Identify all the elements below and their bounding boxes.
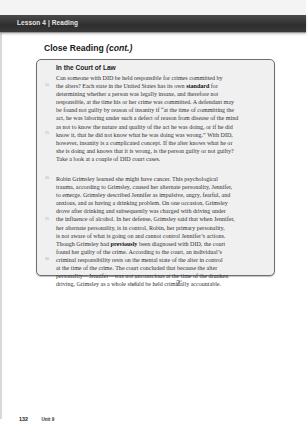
text-run: the alters? Each state in the United Sta… [56, 83, 186, 89]
text-line: anxious, and as having a drinking proble… [56, 199, 272, 207]
text-line: Take a look at a couple of DID court cas… [56, 155, 272, 163]
vocab-word-standard: standard [186, 83, 209, 89]
text-line: her alternate personality, is in control… [56, 224, 272, 232]
line-number: 15 [45, 131, 49, 135]
section-title: Close Reading (cont.) [44, 43, 132, 53]
text-line: is not aware of what is going on and can… [56, 232, 272, 240]
page-footer: 132 Unit 9 [19, 407, 54, 425]
lesson-header-bar: Lesson 4 | Reading [0, 15, 306, 33]
text-line: the alters? Each state in the United Sta… [56, 82, 272, 90]
text-line: be found not guilty by reason of insanit… [56, 106, 272, 114]
text-run: been diagnosed with DID, the court [137, 241, 225, 247]
text-line: she is doing and knows that it is wrong,… [56, 147, 272, 155]
lesson-label: Lesson 4 | Reading [17, 19, 78, 26]
top-margin [0, 0, 306, 15]
text-line: Can someone with DID be held responsible… [56, 74, 272, 82]
text-run: Though Grimsley had [56, 241, 111, 247]
unit-label: Unit 9 [41, 417, 54, 422]
text-line: drove after drinking and subsequently wa… [56, 207, 272, 215]
text-line: driving, Grimsley as a whole should be h… [56, 280, 272, 288]
passage-paragraph-1: Can someone with DID be held responsible… [56, 74, 272, 163]
text-line: responsible, at the time his or her crim… [56, 98, 272, 106]
line-number: 30 [45, 257, 49, 261]
checkmark-icon: ✔ [131, 280, 138, 289]
page-edge [0, 0, 2, 419]
line-number: 25 [45, 217, 49, 221]
text-line: to emerge. Grimsley described Jennifer a… [56, 191, 272, 199]
question-mark-icon: ?c [176, 278, 182, 288]
text-line: as not to know the nature and quality of… [56, 123, 272, 131]
page-number: 132 [19, 416, 28, 422]
text-line: Though Grimsley had previously been diag… [56, 240, 272, 248]
question-superscript: c [181, 278, 183, 283]
passage-heading: In the Court of Law [56, 64, 116, 71]
text-line: however, insanity is a complicated conce… [56, 139, 272, 147]
text-line: know it, that he did not know what he wa… [56, 131, 272, 139]
passage-paragraph-2: Robin Grimsley learned she might have ca… [56, 175, 272, 288]
line-number: 10 [45, 83, 49, 87]
text-line: the influence of alcohol. In her defense… [56, 215, 272, 223]
text-run: for [209, 83, 218, 89]
text-line: determining whether a person was legally… [56, 90, 272, 98]
section-title-text: Close Reading [44, 43, 104, 53]
text-line: Robin Grimsley learned she might have ca… [56, 175, 272, 183]
vocab-word-previously: previously [111, 241, 138, 247]
line-number: 20 [45, 176, 49, 180]
text-line: at the time of the crime. The court conc… [56, 264, 272, 272]
text-line: personality—Jennifer—was not unconscious… [56, 272, 272, 280]
reading-passage-box: In the Court of Law 10 15 20 25 30 Can s… [36, 59, 275, 276]
text-line: found her guilty of the crime. According… [56, 248, 272, 256]
text-line: trauma, according to Grimsley, caused he… [56, 183, 272, 191]
section-title-suffix: (cont.) [106, 43, 132, 53]
text-line: act, he was laboring under such a defect… [56, 114, 272, 122]
text-line: criminal responsibility rests on the men… [56, 256, 272, 264]
